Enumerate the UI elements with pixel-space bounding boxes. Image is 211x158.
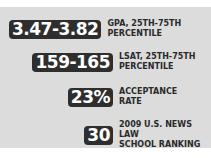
stat-value-badge: 3.47-3.82 [9, 20, 101, 39]
stat-acceptance: 23% ACCEPTANCE RATE [68, 87, 211, 107]
stat-label: LSAT, 25TH-75TH PERCENTILE [119, 52, 211, 72]
stat-value-badge: 30 [84, 126, 113, 145]
stat-label: GPA, 25TH-75TH PERCENTILE [107, 19, 199, 39]
stats-panel: 3.47-3.82 GPA, 25TH-75TH PERCENTILE 159-… [0, 7, 211, 148]
stat-ranking: 30 2009 U.S. NEWS LAW SCHOOL RANKING [84, 120, 211, 150]
stat-value-badge: 23% [68, 88, 113, 107]
stat-gpa: 3.47-3.82 GPA, 25TH-75TH PERCENTILE [9, 19, 211, 39]
stat-lsat: 159-165 LSAT, 25TH-75TH PERCENTILE [32, 52, 211, 72]
stat-value-badge: 159-165 [32, 53, 113, 72]
stat-label: 2009 U.S. NEWS LAW SCHOOL RANKING [119, 120, 211, 150]
stat-label: ACCEPTANCE RATE [119, 87, 211, 107]
